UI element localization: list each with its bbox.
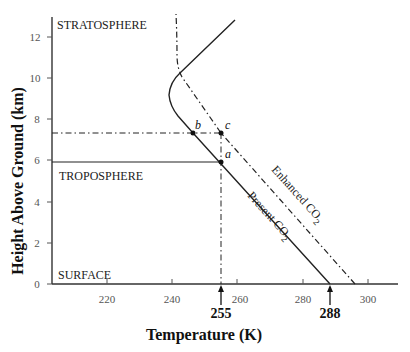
highlight-255-label: 255 bbox=[211, 306, 232, 321]
surface-label: SURFACE bbox=[58, 268, 111, 282]
point-a bbox=[219, 160, 224, 165]
point-b-label: b bbox=[195, 118, 201, 132]
x-axis-title: Temperature (K) bbox=[146, 326, 262, 344]
stratosphere-label: STRATOSPHERE bbox=[57, 18, 147, 32]
highlight-288-label: 288 bbox=[320, 306, 341, 321]
x-tick-labels: 220 240 260 280 300 bbox=[99, 293, 377, 305]
svg-text:Present CO2: Present CO2 bbox=[243, 189, 295, 245]
svg-text:4: 4 bbox=[34, 196, 40, 208]
point-c-label: c bbox=[225, 118, 231, 132]
svg-text:12: 12 bbox=[30, 31, 41, 43]
svg-text:0: 0 bbox=[34, 278, 40, 290]
svg-text:2: 2 bbox=[34, 237, 40, 249]
chart: 0 2 4 6 8 10 12 220 240 260 280 300 255 … bbox=[0, 0, 410, 352]
enhanced-co2-line bbox=[176, 14, 355, 284]
y-axis-title: Height Above Ground (km) bbox=[9, 87, 27, 275]
arrow-288-icon bbox=[327, 285, 333, 305]
y-tick-labels: 0 2 4 6 8 10 12 bbox=[30, 31, 42, 290]
point-c bbox=[219, 131, 224, 136]
svg-text:6: 6 bbox=[34, 154, 40, 166]
svg-text:10: 10 bbox=[30, 72, 42, 84]
svg-text:300: 300 bbox=[360, 293, 377, 305]
present-co2-label: Present CO2 bbox=[243, 189, 295, 245]
svg-text:260: 260 bbox=[232, 293, 249, 305]
y-ticks bbox=[47, 37, 52, 284]
svg-text:280: 280 bbox=[295, 293, 312, 305]
point-a-label: a bbox=[225, 147, 231, 161]
svg-text:8: 8 bbox=[34, 113, 40, 125]
arrow-255-icon bbox=[218, 285, 224, 305]
svg-text:220: 220 bbox=[99, 293, 116, 305]
svg-text:240: 240 bbox=[164, 293, 181, 305]
present-co2-line bbox=[169, 20, 330, 284]
troposphere-label: TROPOSPHERE bbox=[59, 169, 143, 183]
